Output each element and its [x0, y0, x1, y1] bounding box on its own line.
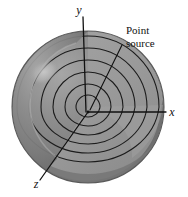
- y-axis-label: y: [75, 3, 82, 17]
- point-source-label-line2: source: [126, 37, 155, 49]
- x-axis-label: x: [168, 105, 175, 119]
- origin-point-source: [87, 111, 90, 114]
- point-source-label-line1: Point: [126, 24, 149, 36]
- z-axis-label: z: [33, 177, 39, 191]
- point-source-sphere-figure: x y z Point source: [0, 0, 188, 197]
